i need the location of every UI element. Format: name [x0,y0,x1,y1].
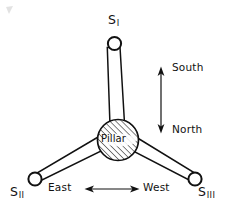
label-pillar: Pillar [101,134,126,144]
label-sensor-1-subscript: I [116,18,119,28]
label-sensor-2-subscript: II [18,190,24,200]
label-sensor-1: SI [108,14,120,28]
label-sensor-2: SII [10,186,24,200]
sensor-assembly-diagram [0,0,234,211]
label-sensor-3: SIII [198,186,215,200]
label-south: South [172,62,204,73]
label-sensor-3-base: S [198,184,206,199]
label-sensor-2-base: S [10,184,18,199]
figure-root: SI SII SIII Pillar South North East West [0,0,234,211]
sensor-1-node [108,37,121,50]
south-north-arrow [158,67,165,134]
label-sensor-1-base: S [108,12,116,27]
label-sensor-3-subscript: III [206,190,215,200]
label-north: North [172,124,202,135]
label-west: West [143,182,170,193]
label-east: East [48,182,71,193]
sensor-2-node [28,172,41,185]
east-west-arrow [85,186,140,193]
scan-artifact [6,6,13,14]
